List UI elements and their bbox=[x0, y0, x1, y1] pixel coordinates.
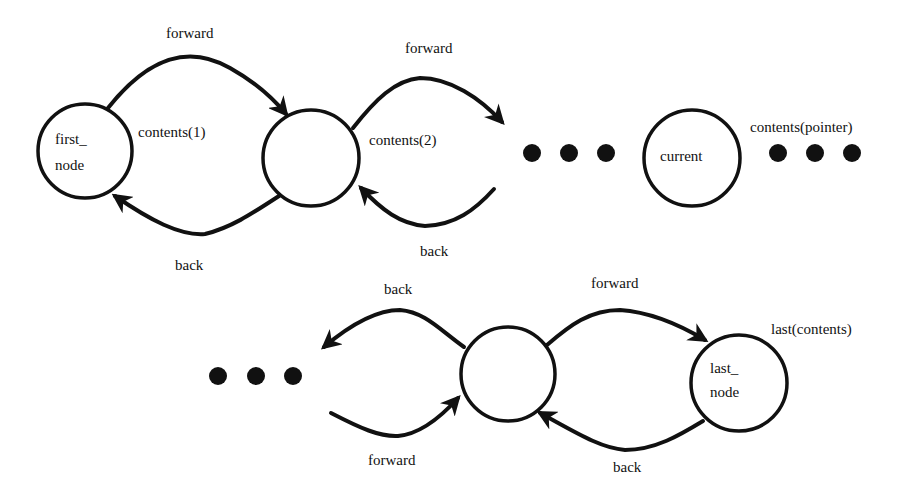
node-last-label-line1: last_ bbox=[710, 360, 739, 376]
contents-1-label: contents(1) bbox=[138, 124, 205, 141]
contents-pointer-label: contents(pointer) bbox=[750, 119, 852, 136]
edge-back-last-penultimate-label: back bbox=[613, 459, 642, 475]
edge-back-ellipsis-second-label: back bbox=[420, 243, 449, 259]
node-last: last_ node bbox=[691, 335, 787, 431]
edge-forward-second-ellipsis-label: forward bbox=[405, 40, 453, 56]
ellipsis-dots-3 bbox=[209, 367, 302, 385]
edge-forward-first-second-label: forward bbox=[166, 25, 214, 41]
linked-list-diagram: first_ node contents(1) contents(2) forw… bbox=[0, 0, 903, 498]
edge-forward-penultimate-last-label: forward bbox=[591, 275, 639, 291]
node-second bbox=[263, 110, 359, 206]
node-current: current bbox=[644, 110, 740, 206]
edge-forward-penultimate-last bbox=[547, 310, 705, 345]
node-first: first_ node bbox=[38, 104, 132, 198]
node-penultimate bbox=[461, 327, 555, 421]
edge-back-last-penultimate bbox=[540, 413, 703, 450]
edge-back-penultimate-ellipsis bbox=[324, 310, 464, 347]
node-current-label: current bbox=[660, 148, 703, 164]
edge-back-penultimate-ellipsis-label: back bbox=[384, 281, 413, 297]
node-first-label-line1: first_ bbox=[55, 131, 87, 147]
edge-forward-second-ellipsis bbox=[353, 78, 502, 128]
last-contents-label: last(contents) bbox=[771, 321, 852, 338]
edge-back-second-first-label: back bbox=[175, 257, 204, 273]
node-first-label-line2: node bbox=[55, 157, 85, 173]
edge-forward-ellipsis-penultimate bbox=[331, 398, 458, 436]
node-last-label-line2: node bbox=[710, 384, 740, 400]
ellipsis-dots-2 bbox=[769, 144, 861, 162]
edge-forward-first-second bbox=[108, 56, 286, 114]
contents-2-label: contents(2) bbox=[369, 132, 436, 149]
edge-back-ellipsis-second bbox=[361, 188, 494, 226]
ellipsis-dots-1 bbox=[523, 144, 615, 162]
edge-back-second-first bbox=[115, 196, 279, 234]
edge-forward-ellipsis-penultimate-label: forward bbox=[368, 452, 416, 468]
